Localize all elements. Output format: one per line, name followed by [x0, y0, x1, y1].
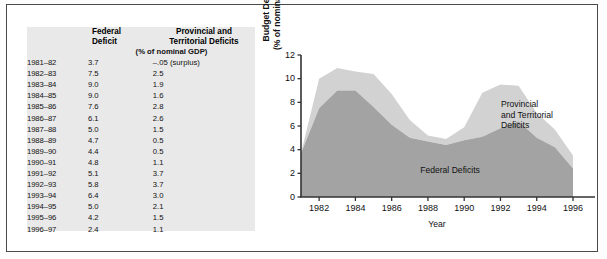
cell-year: 1993–94 — [27, 190, 88, 201]
chart-x-axis-title: Year — [407, 219, 467, 229]
deficit-data-table-panel: Federal Deficit Provincial and Territori… — [27, 27, 255, 231]
table-row: 1984–859.01.6 — [27, 90, 255, 101]
cell-provincial-deficit: 1.5 — [153, 212, 255, 223]
table-units-row: (% of nominal GDP) — [27, 46, 255, 57]
chart-plot-area: Provincial and Territorial Deficits Fede… — [301, 55, 573, 197]
y-axis-tick-label: 8 — [279, 98, 295, 107]
cell-year: 1995–96 — [27, 212, 88, 223]
cell-year: 1982–83 — [27, 68, 88, 79]
y-axis-tick-label: 6 — [279, 122, 295, 131]
chart-y-axis-title: Budget Deficits (% of nominal GDP) — [261, 0, 283, 85]
cell-federal-deficit: 6.4 — [88, 190, 153, 201]
table-row: 1996–972.41.1 — [27, 224, 255, 235]
cell-federal-deficit: 7.5 — [88, 68, 153, 79]
cell-provincial-deficit: 1.1 — [153, 224, 255, 235]
cell-year: 1987–88 — [27, 124, 88, 135]
cell-federal-deficit: 4.4 — [88, 146, 153, 157]
figure-frame: Federal Deficit Provincial and Territori… — [6, 4, 598, 252]
cell-year: 1992–93 — [27, 179, 88, 190]
table-row: 1987–885.01.5 — [27, 124, 255, 135]
table-row: 1981–823.7–.05 (surplus) — [27, 57, 255, 68]
cell-year: 1985–86 — [27, 101, 88, 112]
x-axis-tick-label: 1986 — [375, 204, 409, 213]
cell-federal-deficit: 5.0 — [88, 124, 153, 135]
cell-federal-deficit: 4.8 — [88, 157, 153, 168]
table-row: 1995–964.21.5 — [27, 212, 255, 223]
column-header-federal-line1: Federal — [92, 27, 121, 36]
cell-year: 1989–90 — [27, 146, 88, 157]
cell-provincial-deficit: 0.5 — [153, 135, 255, 146]
x-axis-tick-label: 1982 — [302, 204, 336, 213]
x-axis-tick-label: 1992 — [483, 204, 517, 213]
table-row: 1985–867.62.8 — [27, 101, 255, 112]
cell-provincial-deficit: 1.5 — [153, 124, 255, 135]
cell-provincial-deficit: 0.5 — [153, 146, 255, 157]
table-units-label: (% of nominal GDP) — [88, 46, 255, 57]
cell-federal-deficit: 6.1 — [88, 113, 153, 124]
cell-provincial-deficit: 1.6 — [153, 90, 255, 101]
cell-federal-deficit: 5.1 — [88, 168, 153, 179]
cell-provincial-deficit: 2.8 — [153, 101, 255, 112]
units-spacer — [27, 46, 88, 57]
x-axis-tick-label: 1988 — [411, 204, 445, 213]
x-axis-tick-label: 1996 — [556, 204, 590, 213]
cell-federal-deficit: 5.8 — [88, 179, 153, 190]
cell-year: 1986–87 — [27, 113, 88, 124]
cell-year: 1991–92 — [27, 168, 88, 179]
table-row: 1993–946.43.0 — [27, 190, 255, 201]
column-header-provincial-line1: Provincial and — [176, 27, 232, 36]
table-row: 1982–837.52.5 — [27, 68, 255, 79]
x-axis-tick-label: 1990 — [447, 204, 481, 213]
table-body: 1981–823.7–.05 (surplus)1982–837.52.5198… — [27, 57, 255, 235]
y-axis-tick-label: 10 — [279, 74, 295, 83]
cell-year: 1994–95 — [27, 201, 88, 212]
cell-federal-deficit: 5.0 — [88, 201, 153, 212]
column-header-year — [27, 27, 88, 46]
cell-provincial-deficit: 1.1 — [153, 157, 255, 168]
column-header-provincial-territorial-deficits: Provincial and Territorial Deficits — [153, 27, 255, 46]
column-header-federal-deficit: Federal Deficit — [88, 27, 153, 46]
annotation-provincial-territorial-deficits: Provincial and Territorial Deficits — [501, 99, 581, 131]
cell-provincial-deficit: 3.0 — [153, 190, 255, 201]
y-axis-tick-label: 2 — [279, 169, 295, 178]
table-row: 1990–914.81.1 — [27, 157, 255, 168]
cell-federal-deficit: 2.4 — [88, 224, 153, 235]
budget-deficits-chart: Budget Deficits (% of nominal GDP) 02468… — [263, 25, 599, 241]
x-axis-tick-label: 1994 — [520, 204, 554, 213]
y-axis-tick-label: 12 — [279, 51, 295, 60]
cell-federal-deficit: 4.7 — [88, 135, 153, 146]
table-row: 1994–955.02.1 — [27, 201, 255, 212]
cell-provincial-deficit: 2.6 — [153, 113, 255, 124]
cell-federal-deficit: 4.2 — [88, 212, 153, 223]
cell-federal-deficit: 3.7 — [88, 57, 153, 68]
cell-federal-deficit: 7.6 — [88, 101, 153, 112]
annotation-federal-deficits: Federal Deficits — [405, 165, 495, 176]
table-header-row: Federal Deficit Provincial and Territori… — [27, 27, 255, 46]
cell-federal-deficit: 9.0 — [88, 79, 153, 90]
cell-provincial-deficit: –.05 (surplus) — [153, 57, 255, 68]
y-axis-tick-label: 4 — [279, 145, 295, 154]
cell-year: 1984–85 — [27, 90, 88, 101]
column-header-federal-line2: Deficit — [92, 37, 117, 46]
cell-year: 1981–82 — [27, 57, 88, 68]
cell-year: 1983–84 — [27, 79, 88, 90]
deficit-table: Federal Deficit Provincial and Territori… — [27, 27, 255, 235]
table-row: 1986–876.12.6 — [27, 113, 255, 124]
table-row: 1989–904.40.5 — [27, 146, 255, 157]
cell-federal-deficit: 9.0 — [88, 90, 153, 101]
column-header-provincial-line2: Territorial Deficits — [169, 37, 238, 46]
table-header: Federal Deficit Provincial and Territori… — [27, 27, 255, 57]
cell-year: 1990–91 — [27, 157, 88, 168]
cell-provincial-deficit: 2.5 — [153, 68, 255, 79]
table-row: 1988–894.70.5 — [27, 135, 255, 146]
x-axis-tick-label: 1984 — [338, 204, 372, 213]
y-axis-tick-label: 0 — [279, 193, 295, 202]
cell-year: 1988–89 — [27, 135, 88, 146]
cell-provincial-deficit: 2.1 — [153, 201, 255, 212]
cell-provincial-deficit: 1.9 — [153, 79, 255, 90]
table-row: 1983–849.01.9 — [27, 79, 255, 90]
table-row: 1991–925.13.7 — [27, 168, 255, 179]
cell-year: 1996–97 — [27, 224, 88, 235]
cell-provincial-deficit: 3.7 — [153, 179, 255, 190]
cell-provincial-deficit: 3.7 — [153, 168, 255, 179]
